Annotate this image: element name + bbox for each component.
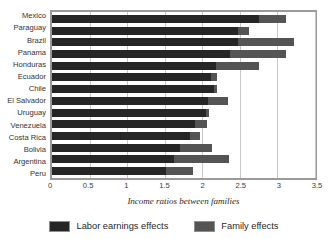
bar-stack: [52, 27, 315, 35]
x-tick-label: 1: [124, 181, 128, 190]
bar-segment-labor-earnings: [52, 132, 190, 140]
bar-stack: [52, 62, 315, 70]
bar-row: [52, 13, 315, 25]
category-label: Argentina: [0, 156, 49, 168]
bar-stack: [52, 120, 315, 128]
bar-segment-family-effects: [230, 50, 286, 58]
chart-legend: Labor earnings effectsFamily effects: [0, 216, 328, 236]
bar-segment-labor-earnings: [52, 73, 211, 81]
chart-title: [0, 0, 328, 1]
bar-segment-family-effects: [238, 27, 249, 35]
bar-stack: [52, 38, 315, 46]
bar-row: [52, 60, 315, 72]
bar-row: [52, 48, 315, 60]
x-tick-label: 0: [48, 181, 52, 190]
bar-row: [52, 36, 315, 48]
bar-segment-labor-earnings: [52, 15, 259, 23]
bar-stack: [52, 132, 315, 140]
bar-segment-labor-earnings: [52, 120, 195, 128]
bar-segment-family-effects: [180, 144, 212, 152]
bar-stack: [52, 167, 315, 175]
bar-segment-family-effects: [216, 62, 259, 70]
category-label: Ecuador: [0, 71, 49, 83]
bar-segment-family-effects: [214, 85, 216, 93]
x-tick-label: 1.5: [159, 181, 170, 190]
bar-stack: [52, 73, 315, 81]
legend-swatch-icon: [194, 221, 215, 232]
bar-row: [52, 107, 315, 119]
bar-segment-labor-earnings: [52, 38, 238, 46]
x-tick-label: 3: [277, 181, 281, 190]
bar-row: [52, 25, 315, 37]
category-axis: MexicoParaguayBrazilPanamaHondurasEcuado…: [0, 10, 49, 180]
category-label: Mexico: [0, 10, 49, 22]
bar-segment-family-effects: [190, 132, 200, 140]
category-label: Venezuela: [0, 119, 49, 131]
bar-chart: MexicoParaguayBrazilPanamaHondurasEcuado…: [0, 0, 328, 239]
bars-layer: [52, 12, 315, 178]
bar-row: [52, 118, 315, 130]
legend-swatch-icon: [49, 221, 70, 232]
bar-segment-labor-earnings: [52, 109, 206, 117]
bar-stack: [52, 109, 315, 117]
value-axis: 00.511.522.533.5: [50, 181, 317, 195]
bar-row: [52, 165, 315, 177]
category-label: Uruguay: [0, 107, 49, 119]
bar-segment-family-effects: [259, 15, 286, 23]
legend-label: Labor earnings effects: [76, 221, 168, 231]
bar-segment-labor-earnings: [52, 50, 230, 58]
bar-segment-family-effects: [166, 167, 193, 175]
bar-segment-labor-earnings: [52, 27, 238, 35]
bar-row: [52, 95, 315, 107]
bar-stack: [52, 50, 315, 58]
bar-segment-labor-earnings: [52, 155, 174, 163]
gridline: [315, 12, 316, 178]
legend-item: Labor earnings effects: [49, 221, 168, 232]
bar-segment-labor-earnings: [52, 62, 216, 70]
x-tick-label: 0.5: [83, 181, 94, 190]
bar-segment-labor-earnings: [52, 85, 214, 93]
x-tick-label: 2.5: [235, 181, 246, 190]
legend-label: Family effects: [221, 221, 278, 231]
bar-stack: [52, 15, 315, 23]
category-label: Peru: [0, 168, 49, 180]
bar-segment-labor-earnings: [52, 144, 180, 152]
bar-segment-family-effects: [238, 38, 294, 46]
bar-stack: [52, 97, 315, 105]
bar-row: [52, 154, 315, 166]
category-label: El Salvador: [0, 95, 49, 107]
category-label: Costa Rica: [0, 131, 49, 143]
bar-row: [52, 142, 315, 154]
bar-stack: [52, 144, 315, 152]
x-tick-label: 3.5: [312, 181, 323, 190]
plot-inner: [52, 12, 315, 178]
legend-item: Family effects: [194, 221, 278, 232]
x-tick-label: 2: [200, 181, 204, 190]
bar-segment-family-effects: [206, 109, 209, 117]
category-label: Paraguay: [0, 22, 49, 34]
bar-stack: [52, 155, 315, 163]
category-label: Honduras: [0, 59, 49, 71]
bar-stack: [52, 85, 315, 93]
bar-row: [52, 130, 315, 142]
bar-segment-family-effects: [208, 97, 228, 105]
bar-segment-family-effects: [174, 155, 228, 163]
plot-area: [50, 10, 317, 180]
category-label: Chile: [0, 83, 49, 95]
bar-row: [52, 72, 315, 84]
bar-segment-labor-earnings: [52, 167, 166, 175]
bar-segment-family-effects: [195, 120, 207, 128]
x-axis-title: Income ratios between families: [50, 196, 317, 206]
category-label: Panama: [0, 46, 49, 58]
bar-segment-family-effects: [211, 73, 217, 81]
category-label: Brazil: [0, 34, 49, 46]
bar-segment-labor-earnings: [52, 97, 208, 105]
bar-row: [52, 83, 315, 95]
category-label: Bolivia: [0, 144, 49, 156]
